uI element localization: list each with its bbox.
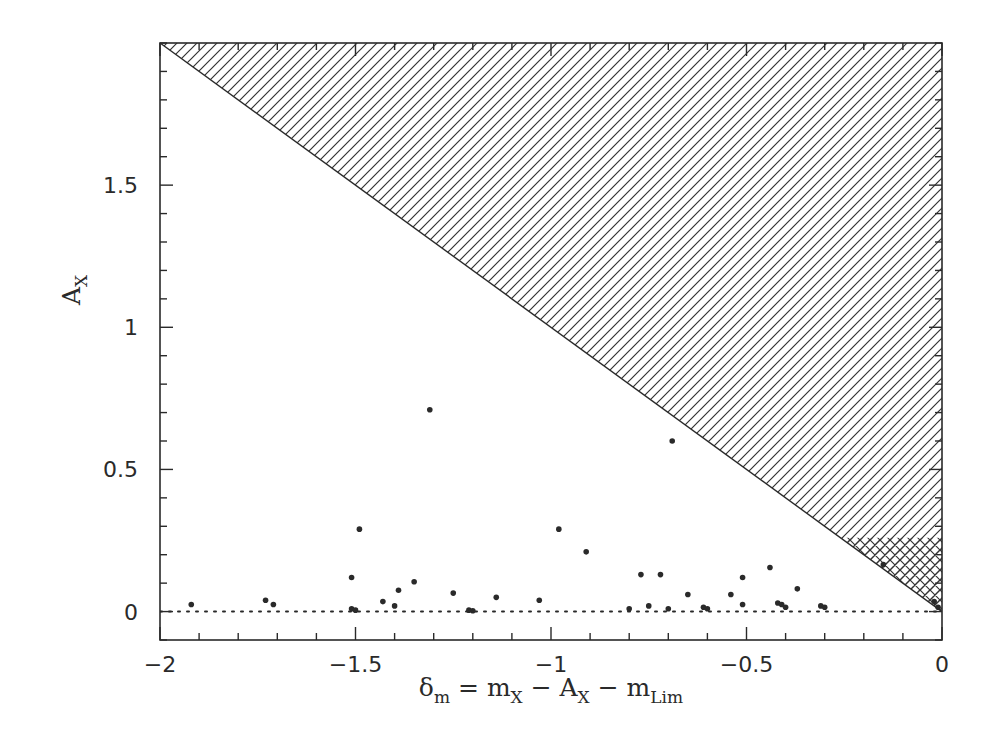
x-tick-label: −1.5 xyxy=(329,652,382,677)
data-point xyxy=(470,608,476,614)
data-point xyxy=(380,599,386,605)
data-point xyxy=(357,526,363,532)
data-point xyxy=(881,562,887,568)
y-tick-label: 0 xyxy=(124,600,138,625)
data-point xyxy=(783,605,789,611)
data-point xyxy=(822,605,828,611)
plot-area xyxy=(160,43,942,614)
data-point xyxy=(646,603,652,609)
y-tick-label: 1.5 xyxy=(103,173,138,198)
scatter-chart: −2−1.5−1−0.5000.511.5 δm = mX − AX − mLi… xyxy=(0,0,988,755)
data-point xyxy=(263,597,269,603)
data-point xyxy=(728,592,734,598)
data-point xyxy=(392,603,398,609)
data-point xyxy=(638,572,644,578)
data-point xyxy=(705,606,711,612)
y-tick-label: 0.5 xyxy=(103,457,138,482)
data-point xyxy=(583,549,589,555)
data-point xyxy=(685,592,691,598)
y-axis-title: AX xyxy=(57,274,91,306)
x-axis-title: δm = mX − AX − mLim xyxy=(419,673,683,707)
data-point xyxy=(767,565,773,571)
data-point xyxy=(188,602,194,608)
data-point xyxy=(427,407,433,413)
data-point xyxy=(493,595,499,601)
x-tick-label: −2 xyxy=(144,652,176,677)
data-point xyxy=(666,606,672,612)
data-point xyxy=(740,602,746,608)
x-tick-label: 0 xyxy=(935,652,949,677)
data-point xyxy=(931,599,937,605)
data-point xyxy=(349,575,355,581)
data-point xyxy=(556,526,562,532)
data-point xyxy=(935,605,941,611)
y-tick-label: 1 xyxy=(124,315,138,340)
data-point xyxy=(795,586,801,592)
data-point xyxy=(411,579,417,585)
data-point xyxy=(353,607,359,613)
data-point xyxy=(536,597,542,603)
data-point xyxy=(626,606,632,612)
data-point xyxy=(658,572,664,578)
data-point xyxy=(669,438,675,444)
x-tick-label: −0.5 xyxy=(720,652,773,677)
data-point xyxy=(740,575,746,581)
data-point xyxy=(271,602,277,608)
data-point xyxy=(450,590,456,596)
data-point xyxy=(396,587,402,593)
